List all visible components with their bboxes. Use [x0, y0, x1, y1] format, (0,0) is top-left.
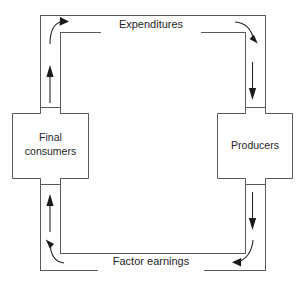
factor-earnings-label: Factor earnings [113, 255, 190, 267]
arrow-left-lower [46, 194, 53, 232]
arrow-right-upper [249, 62, 256, 100]
arrow-left-upper [46, 65, 53, 103]
circular-flow-diagram: Expenditures Factor earnings Final consu… [0, 0, 302, 287]
flow-diagram-svg: Expenditures Factor earnings Final consu… [0, 0, 302, 287]
arrow-right-lower [249, 192, 256, 230]
arrow-bottom-left-corner [46, 240, 64, 264]
arrow-top-left-corner [50, 17, 69, 44]
node-final-consumers-label-line1: Final [39, 131, 62, 143]
node-final-consumers-label-line2: consumers [25, 145, 76, 157]
expenditures-label: Expenditures [119, 18, 184, 30]
node-producers-label-line1: Producers [231, 139, 279, 151]
